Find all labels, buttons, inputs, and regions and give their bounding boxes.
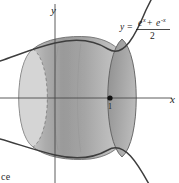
figure-container: y x 1 y = e x + e -x 2 ce [0,0,179,183]
equation-lhs: y = [119,22,133,32]
point-marker-dot [107,95,112,100]
equation-label: y = e x + e -x 2 [119,17,170,41]
caption-fragment: ce [1,171,10,182]
equation-numerator-second-exponent: -x [161,17,166,23]
point-marker-group: 1 [107,95,112,111]
y-axis-label: y [50,4,56,16]
point-marker-label: 1 [108,102,112,111]
equation-numerator-second-base: e [156,18,160,28]
equation-denominator: 2 [150,31,155,41]
equation-numerator-plus: + [147,18,152,28]
equation-numerator-first-base: e [138,18,142,28]
equation-numerator-first-exponent: x [142,17,146,23]
x-axis-label: x [169,93,175,105]
catenoid-figure: y x 1 y = e x + e -x 2 [0,0,179,183]
